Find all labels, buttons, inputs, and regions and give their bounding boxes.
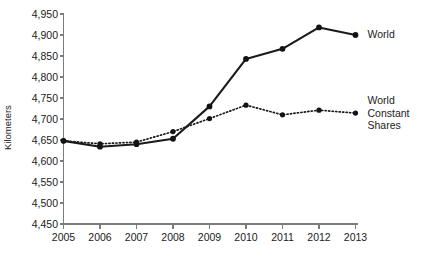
series-line bbox=[64, 27, 356, 146]
data-series-layer bbox=[61, 25, 359, 150]
series-label-world-constant-shares: World Constant Shares bbox=[368, 94, 410, 132]
data-point-marker bbox=[316, 25, 322, 31]
data-point-marker bbox=[207, 116, 212, 121]
data-point-marker bbox=[134, 141, 140, 147]
data-point-marker bbox=[243, 103, 248, 108]
data-point-marker bbox=[353, 32, 359, 38]
axes bbox=[60, 14, 358, 229]
y-axis-ticks bbox=[60, 14, 64, 224]
plot-area bbox=[0, 0, 428, 262]
data-point-marker bbox=[170, 129, 175, 134]
data-point-marker bbox=[316, 108, 321, 113]
data-point-marker bbox=[97, 144, 103, 150]
x-tick-label: 2013 bbox=[334, 231, 378, 243]
data-point-marker bbox=[207, 104, 213, 110]
data-point-marker bbox=[280, 112, 285, 117]
data-point-marker bbox=[61, 138, 67, 144]
data-point-marker bbox=[280, 46, 286, 52]
series-line bbox=[64, 105, 356, 144]
series-label-world: World bbox=[368, 28, 395, 41]
x-axis-ticks bbox=[64, 224, 356, 229]
series-world bbox=[61, 25, 359, 150]
data-point-marker bbox=[170, 136, 176, 142]
line-chart: Kilometers 4,4504,5004,5504,6004,6504,70… bbox=[0, 0, 428, 262]
data-point-marker bbox=[353, 111, 358, 116]
data-point-marker bbox=[243, 56, 249, 62]
